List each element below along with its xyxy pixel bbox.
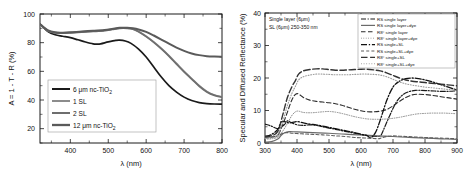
two-panel-figure: 40050060070080020406080100λ (nm)A = 1 - … xyxy=(0,0,469,178)
legend-label-5: RS single+SL+dye xyxy=(377,49,414,54)
y-tick-label: 0 xyxy=(257,140,261,147)
legend-label-4: RS single+SL xyxy=(377,42,404,47)
x-tick-label: 600 xyxy=(355,147,367,154)
x-tick-label: 300 xyxy=(259,147,271,154)
x-axis-title: λ (nm) xyxy=(120,159,142,168)
x-tick-label: 500 xyxy=(102,147,114,154)
annotation-1: SL (6μm) 250-350 nm xyxy=(269,24,318,30)
x-tick-label: 800 xyxy=(419,147,431,154)
legend-label-1: 1 SL xyxy=(73,98,87,105)
left-panel-absorptance: 40050060070080020406080100λ (nm)A = 1 - … xyxy=(0,0,235,178)
x-tick-label: 400 xyxy=(64,147,76,154)
right-panel-reflectance: 300400500600700800900010203040λ (nm)Spec… xyxy=(235,0,469,178)
legend-label-2: R8° single layer xyxy=(377,30,408,35)
y-tick-label: 10 xyxy=(253,107,261,114)
y-tick-label: 60 xyxy=(27,68,35,75)
legend-box xyxy=(358,14,455,68)
x-tick-label: 400 xyxy=(291,147,303,154)
x-tick-label: 600 xyxy=(140,147,152,154)
legend-label-1: RS single layer+dye xyxy=(377,23,417,28)
y-tick-label: 20 xyxy=(253,75,261,82)
y-tick-label: 30 xyxy=(253,42,261,49)
legend-label-2: 2 SL xyxy=(73,110,87,117)
x-tick-label: 700 xyxy=(178,147,190,154)
y-tick-label: 40 xyxy=(27,97,35,104)
legend-label-7: R8° single+SL+dye xyxy=(377,62,415,67)
y-tick-label: 100 xyxy=(23,11,35,18)
y-tick-label: 20 xyxy=(27,125,35,132)
y-tick-label: 80 xyxy=(27,39,35,46)
annotation-0: Single layer (6μm) xyxy=(269,16,310,22)
x-tick-label: 500 xyxy=(323,147,335,154)
x-tick-label: 900 xyxy=(451,147,463,154)
x-axis-title: λ (nm) xyxy=(350,159,372,168)
legend-label-3: R8° single layer+dye xyxy=(377,36,418,41)
legend-label-6: R8° single+SL xyxy=(377,55,406,60)
right-panel-plot: 300400500600700800900010203040λ (nm)Spec… xyxy=(235,0,469,178)
x-tick-label: 700 xyxy=(387,147,399,154)
x-tick-label: 800 xyxy=(216,147,228,154)
y-tick-label: 40 xyxy=(253,10,261,17)
left-panel-plot: 40050060070080020406080100λ (nm)A = 1 - … xyxy=(0,0,235,178)
y-axis-title: Specular and Diffused Reflectance (%) xyxy=(238,13,247,143)
y-axis-title: A = 1 - T - R (%) xyxy=(7,51,16,106)
legend-label-0: RS single layer xyxy=(377,17,407,22)
